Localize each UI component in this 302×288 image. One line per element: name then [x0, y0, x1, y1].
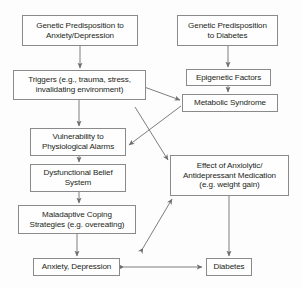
node-genetic-predisposition-diabetes: Genetic Predisposition to Diabetes — [177, 15, 278, 46]
edge-triggers-metabolic-bidirectional — [147, 88, 180, 100]
node-metabolic-syndrome: Metabolic Syndrome — [182, 94, 278, 112]
node-genetic-predisposition-anxiety: Genetic Predisposition to Anxiety/Depres… — [22, 15, 138, 46]
node-dysfunctional-belief-system: Dysfunctional Belief System — [30, 164, 126, 192]
edge-metabolic-to-vulnerability — [129, 106, 181, 145]
node-diabetes: Diabetes — [206, 258, 252, 276]
node-effect-of-medication: Effect of Anxiolytic/ Antidepressant Med… — [170, 155, 289, 196]
node-maladaptive-coping-strategies: Maladaptive Coping Strategies (e.g. over… — [18, 205, 136, 234]
edge-maladaptive-medication-bidirectional — [143, 199, 172, 248]
edge-metabolic-to-medication — [135, 107, 168, 160]
node-anxiety-depression: Anxiety, Depression — [33, 258, 120, 276]
node-epigenetic-factors: Epigenetic Factors — [186, 69, 271, 86]
diagram-canvas: Genetic Predisposition to Anxiety/Depres… — [0, 0, 302, 288]
node-vulnerability-physiological-alarms: Vulnerability to Physiological Alarms — [30, 128, 126, 156]
node-triggers: Triggers (e.g., trauma, stress, invalida… — [13, 70, 146, 100]
